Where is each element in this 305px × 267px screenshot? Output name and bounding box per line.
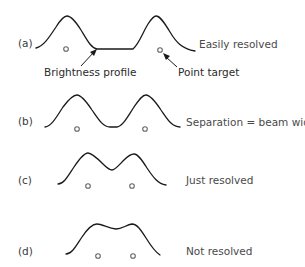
point-target-arrowhead <box>163 53 170 60</box>
panel-d-point-target-1 <box>96 254 101 259</box>
panel-c-brightness-profile <box>58 153 166 185</box>
panel-c-point-target-1 <box>86 184 91 189</box>
panel-b: (b) Separation = beam width <box>18 95 305 131</box>
panel-c-description: Just resolved <box>185 174 253 186</box>
panel-b-brightness-profile <box>45 95 180 127</box>
brightness-profile-label: Brightness profile <box>44 66 136 78</box>
panel-b-point-target-1 <box>75 127 80 132</box>
panel-a-description: Easily resolved <box>199 38 278 50</box>
panel-a: (a) Easily resolved Brightness profile P… <box>18 16 278 78</box>
panel-d-description: Not resolved <box>186 245 252 257</box>
panel-a-label: (a) <box>18 37 33 49</box>
panel-a-point-target-1 <box>64 47 69 52</box>
panel-a-point-target-2 <box>158 48 163 53</box>
brightness-profile-arrow <box>81 52 94 66</box>
panel-a-brightness-profile <box>36 16 195 51</box>
panel-d-point-target-2 <box>131 254 136 259</box>
panel-d: (d) Not resolved <box>18 224 252 258</box>
point-target-arrow <box>166 57 177 67</box>
panel-b-label: (b) <box>18 115 33 127</box>
panel-b-point-target-2 <box>143 127 148 132</box>
panel-c-point-target-2 <box>130 184 135 189</box>
panel-c-label: (c) <box>18 174 32 186</box>
point-target-label: Point target <box>178 66 239 78</box>
panel-b-description: Separation = beam width <box>186 116 305 128</box>
panel-c: (c) Just resolved <box>18 153 253 188</box>
resolution-diagram: (a) Easily resolved Brightness profile P… <box>0 0 305 267</box>
panel-d-label: (d) <box>18 245 33 257</box>
panel-d-brightness-profile <box>66 224 160 255</box>
